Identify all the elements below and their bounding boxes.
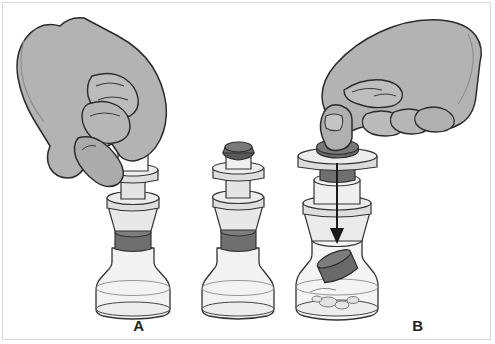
panel-a: A: [0, 0, 200, 344]
panel-caption-a: A: [119, 317, 159, 334]
panel-c: C: [270, 0, 495, 344]
right-hand-c: [320, 20, 481, 151]
device-assembly-b: [202, 142, 274, 319]
device-assembly-c: [296, 140, 378, 321]
vial-base-ellipse-a: [96, 302, 170, 316]
panel-c-artwork: [270, 0, 495, 344]
vial-base-ellipse-b: [202, 302, 274, 316]
plunger-cap-b: [223, 142, 254, 160]
instruction-figure: A: [0, 0, 495, 344]
thumbnail-c: [325, 114, 343, 131]
panel-a-artwork: [0, 0, 200, 344]
